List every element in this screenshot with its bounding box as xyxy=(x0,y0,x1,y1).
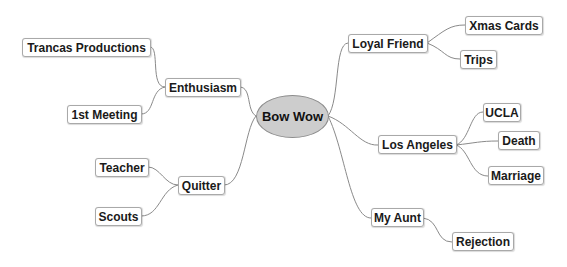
mind-map-canvas: Bow Wow Enthusiasm Trancas Productions 1… xyxy=(0,0,567,267)
connector-la-death xyxy=(456,141,498,145)
branch-node-loyal-friend[interactable]: Loyal Friend xyxy=(348,34,428,53)
branch-node-my-aunt[interactable]: My Aunt xyxy=(371,208,424,227)
leaf-node-ucla[interactable]: UCLA xyxy=(483,103,521,122)
connector-la-ucla xyxy=(456,112,483,145)
connector-loyal-xmas xyxy=(427,25,465,43)
leaf-node-marriage[interactable]: Marriage xyxy=(488,166,544,185)
connector-quitter-scouts xyxy=(141,185,178,216)
connector-enthusiasm-1st-meeting xyxy=(141,87,165,114)
connector-root-quitter xyxy=(224,116,256,185)
connector-loyal-trips xyxy=(427,43,460,59)
branch-node-enthusiasm[interactable]: Enthusiasm xyxy=(165,78,241,97)
connector-aunt-rejection xyxy=(423,218,452,242)
connector-root-my-aunt xyxy=(328,116,371,218)
leaf-node-death[interactable]: Death xyxy=(498,131,540,150)
leaf-node-trips[interactable]: Trips xyxy=(460,50,497,69)
branch-node-los-angeles[interactable]: Los Angeles xyxy=(378,135,457,154)
connector-la-marriage xyxy=(456,145,488,176)
root-node[interactable]: Bow Wow xyxy=(256,95,329,138)
connector-root-los-angeles xyxy=(328,116,378,145)
leaf-node-scouts[interactable]: Scouts xyxy=(95,207,142,226)
leaf-node-rejection[interactable]: Rejection xyxy=(452,232,514,251)
connector-root-enthusiasm xyxy=(240,87,256,116)
leaf-node-xmas-cards[interactable]: Xmas Cards xyxy=(465,16,543,35)
connector-enthusiasm-trancas xyxy=(150,47,165,87)
leaf-node-teacher[interactable]: Teacher xyxy=(95,158,149,177)
leaf-node-1st-meeting[interactable]: 1st Meeting xyxy=(67,105,142,124)
leaf-node-trancas-productions[interactable]: Trancas Productions xyxy=(22,38,151,57)
branch-node-quitter[interactable]: Quitter xyxy=(178,176,225,195)
connector-quitter-teacher xyxy=(148,167,178,185)
connector-root-loyal-friend xyxy=(328,43,348,116)
